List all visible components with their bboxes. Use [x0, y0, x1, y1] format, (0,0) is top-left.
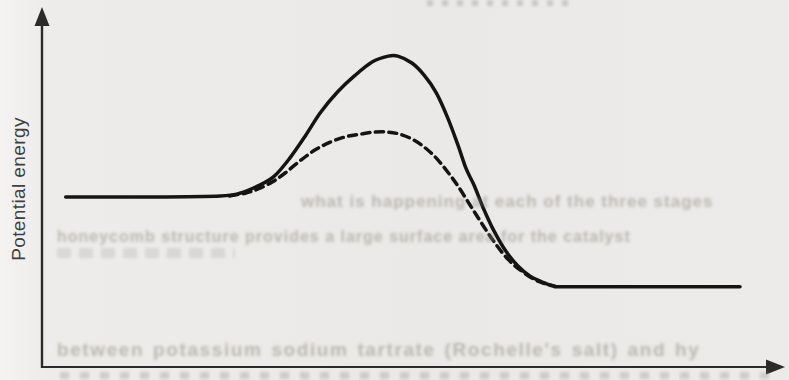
- dashed-curve: [230, 132, 555, 286]
- y-axis-arrow-icon: [35, 7, 50, 26]
- solid-curve: [66, 55, 740, 287]
- energy-profile-figure: Potential energy what is happening at ea…: [0, 0, 789, 380]
- energy-profile-chart: [0, 0, 789, 380]
- x-axis-arrow-icon: [766, 360, 785, 375]
- scanned-textbook-figure: { "chart": { "ylabel": "Potential energy…: [0, 0, 789, 380]
